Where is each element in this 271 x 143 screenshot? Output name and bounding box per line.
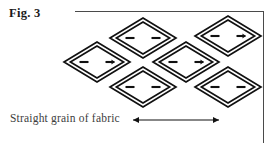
diamond-bottom-right bbox=[195, 67, 261, 107]
figure-container: Fig. 3 Straight grain of fabric bbox=[0, 0, 271, 143]
grain-direction-arrow-left-head bbox=[133, 117, 139, 123]
diamond-middle-right-outer-outline bbox=[153, 42, 219, 82]
diamond-bottom-left bbox=[110, 67, 176, 107]
diamond-top-right bbox=[195, 16, 261, 56]
grain-direction-arrow-right-head bbox=[213, 117, 219, 123]
diamond-top-left bbox=[110, 18, 176, 58]
diamond-bottom-left-outer-outline bbox=[110, 67, 176, 107]
diamond-middle-left-outer-outline bbox=[64, 42, 130, 82]
diamond-top-right-outer-outline bbox=[195, 16, 261, 56]
grain-caption-label: Straight grain of fabric bbox=[10, 112, 120, 124]
diamond-middle-right bbox=[153, 42, 219, 82]
diamond-middle-left bbox=[64, 42, 130, 82]
diamond-top-left-outer-outline bbox=[110, 18, 176, 58]
diamond-bottom-right-outer-outline bbox=[195, 67, 261, 107]
grain-direction-arrow bbox=[133, 117, 219, 123]
